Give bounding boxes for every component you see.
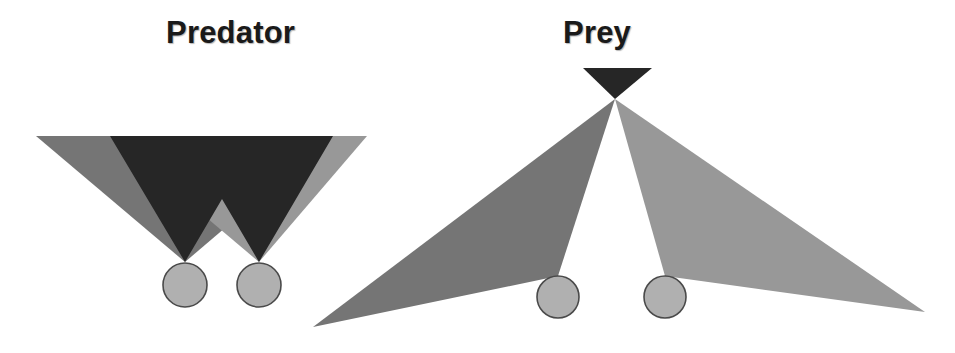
prey-left-eye (537, 276, 579, 318)
prey-binocular-overlap (583, 68, 652, 99)
predator-panel (36, 136, 367, 307)
prey-panel (313, 68, 925, 327)
diagram-canvas (0, 0, 955, 353)
visual-field-diagram: Predator Prey (0, 0, 955, 353)
predator-right-eye (237, 263, 281, 307)
predator-label: Predator (166, 17, 295, 48)
prey-right-eye (644, 276, 686, 318)
prey-label: Prey (563, 17, 631, 48)
predator-left-eye (163, 263, 207, 307)
